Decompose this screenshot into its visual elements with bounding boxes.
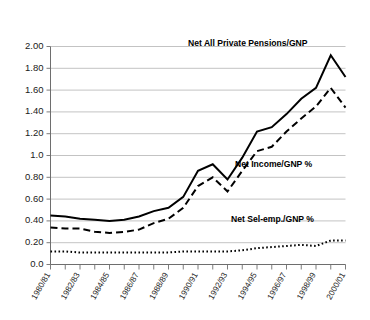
series-annotation-0: Net All Private Pensions/GNP xyxy=(188,38,308,48)
x-axis-tick-labels: 1980/811982/831984/851986/871988/891990/… xyxy=(30,265,348,302)
x-tick-label: 1996/97 xyxy=(266,271,289,302)
series-annotation-1: Net Income/GNP % xyxy=(235,159,313,169)
x-tick-label: 1988/89 xyxy=(148,271,171,302)
x-tick-label: 1998/99 xyxy=(295,271,318,302)
x-tick-label: 1992/93 xyxy=(207,271,230,302)
y-tick-label: 1.40 xyxy=(25,105,44,116)
x-tick-label: 1994/95 xyxy=(236,271,259,302)
y-axis-tick-labels: 0.00.200.400.600.801.01.201.401.601.802.… xyxy=(25,40,51,269)
y-tick-label: 2.00 xyxy=(25,40,44,51)
series-annotation-2: Net Sel-emp./GNP % xyxy=(231,214,314,224)
y-tick-label: 1.0 xyxy=(30,149,43,160)
y-tick-label: 0.20 xyxy=(25,236,44,247)
y-tick-label: 0.60 xyxy=(25,193,44,204)
x-tick-label: 1986/87 xyxy=(118,271,141,302)
x-tick-label: 1990/91 xyxy=(177,271,200,302)
x-tick-label: 2000/01 xyxy=(325,271,348,302)
y-tick-label: 1.60 xyxy=(25,84,44,95)
x-tick-label: 1980/81 xyxy=(30,271,53,302)
y-tick-label: 0.40 xyxy=(25,214,44,225)
x-tick-label: 1982/83 xyxy=(59,271,82,302)
y-tick-label: 1.80 xyxy=(25,62,44,73)
series-annotations: Net All Private Pensions/GNPNet Income/G… xyxy=(188,38,314,224)
y-tick-label: 0.0 xyxy=(30,258,43,269)
x-tick-label: 1984/85 xyxy=(89,271,112,302)
y-tick-label: 0.80 xyxy=(25,171,44,182)
series-line-0 xyxy=(51,55,346,221)
chart-container: 0.00.200.400.600.801.01.201.401.601.802.… xyxy=(0,0,370,320)
line-chart: 0.00.200.400.600.801.01.201.401.601.802.… xyxy=(0,0,370,320)
y-tick-label: 1.20 xyxy=(25,127,44,138)
